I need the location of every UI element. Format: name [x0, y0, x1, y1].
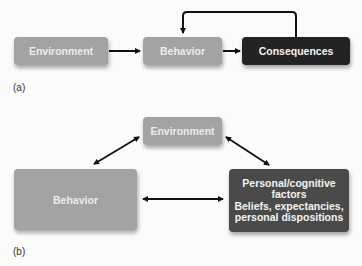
node-environment-b: Environment [143, 117, 222, 145]
feedback-arrow [183, 12, 296, 37]
node-environment-a: Environment [14, 37, 108, 65]
node-label-line4: personal dispositions [235, 212, 344, 224]
node-label: Behavior [160, 45, 205, 57]
node-behavior-b: Behavior [14, 169, 137, 230]
arrow-env-personal [226, 137, 269, 165]
node-personal-factors: Personal/cognitive factors Beliefs, expe… [229, 169, 349, 232]
node-behavior-a: Behavior [143, 37, 222, 65]
panel-a-label: (a) [13, 82, 25, 93]
arrow-env-behavior [94, 137, 139, 164]
node-label: Environment [29, 45, 93, 57]
node-label-line2: factors [271, 189, 306, 201]
node-label: Behavior [53, 194, 98, 206]
node-consequences-a: Consequences [242, 37, 350, 65]
node-label: Environment [150, 125, 214, 137]
panel-b-label: (b) [13, 246, 25, 257]
node-label: Consequences [259, 45, 334, 57]
